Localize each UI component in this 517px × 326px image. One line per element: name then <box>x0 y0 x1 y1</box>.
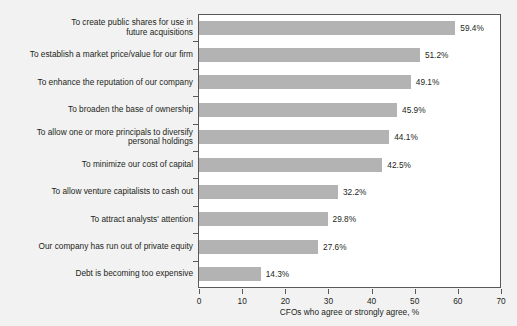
category-label: Debt is becoming too expensive <box>8 269 193 279</box>
y-axis-tick <box>193 206 198 207</box>
bar <box>199 240 318 254</box>
bar-value-label: 32.2% <box>343 187 367 197</box>
category-label: To attract analysts' attention <box>8 215 193 225</box>
bar-value-label: 29.8% <box>333 214 357 224</box>
x-axis-tick-label: 10 <box>238 296 247 306</box>
x-axis-tick <box>372 289 373 294</box>
bar <box>199 185 338 199</box>
y-axis-tick <box>193 233 198 234</box>
category-label: To establish a market price/value for ou… <box>8 50 193 60</box>
bar-row: To broaden the base of ownership45.9% <box>0 96 517 123</box>
bar <box>199 103 397 117</box>
x-axis-tick <box>242 289 243 294</box>
x-axis-tick-label: 20 <box>281 296 290 306</box>
bar-value-label: 44.1% <box>394 132 418 142</box>
bar <box>199 130 389 144</box>
bar <box>199 48 420 62</box>
x-axis-tick <box>458 289 459 294</box>
x-axis-tick-label: 70 <box>496 296 505 306</box>
x-axis-title: CFOs who agree or strongly agree, % <box>198 307 501 317</box>
x-axis-tick-label: 50 <box>410 296 419 306</box>
bar-value-label: 49.1% <box>416 77 440 87</box>
bar-value-label: 59.4% <box>460 23 484 33</box>
bar-row: To establish a market price/value for ou… <box>0 41 517 68</box>
x-axis-tick-label: 0 <box>197 296 202 306</box>
x-axis-tick <box>501 289 502 294</box>
category-label: To allow one or more principals to diver… <box>8 128 193 147</box>
category-label: To allow venture capitalists to cash out <box>8 187 193 197</box>
bar-row: Our company has run out of private equit… <box>0 233 517 260</box>
bar-value-label: 51.2% <box>425 50 449 60</box>
bar-value-label: 27.6% <box>323 242 347 252</box>
bar-row: To attract analysts' attention29.8% <box>0 206 517 233</box>
x-axis-tick-label: 30 <box>324 296 333 306</box>
bar-row: To minimize our cost of capital42.5% <box>0 151 517 178</box>
bar <box>199 21 455 35</box>
bar <box>199 75 411 89</box>
bar-row: To allow one or more principals to diver… <box>0 124 517 151</box>
category-label: To create public shares for use in futur… <box>8 18 193 37</box>
x-axis-tick-label: 60 <box>453 296 462 306</box>
category-label: To minimize our cost of capital <box>8 160 193 170</box>
y-axis-tick <box>193 178 198 179</box>
y-axis-tick <box>193 41 198 42</box>
x-axis-tick <box>199 289 200 294</box>
bar <box>199 267 261 281</box>
bar-value-label: 42.5% <box>387 160 411 170</box>
category-label: To enhance the reputation of our company <box>8 78 193 88</box>
y-axis-tick <box>193 124 198 125</box>
horizontal-bar-chart: To create public shares for use in futur… <box>0 0 517 326</box>
x-axis-tick-label: 40 <box>367 296 376 306</box>
bar-value-label: 14.3% <box>266 269 290 279</box>
category-label: Our company has run out of private equit… <box>8 242 193 252</box>
y-axis-tick <box>193 151 198 152</box>
bar-value-label: 45.9% <box>402 105 426 115</box>
category-label: To broaden the base of ownership <box>8 105 193 115</box>
y-axis-tick <box>193 69 198 70</box>
y-axis-tick <box>193 96 198 97</box>
x-axis-tick <box>415 289 416 294</box>
y-axis-tick <box>193 261 198 262</box>
bar-row: To enhance the reputation of our company… <box>0 69 517 96</box>
x-axis-tick <box>328 289 329 294</box>
bar-row: To create public shares for use in futur… <box>0 14 517 41</box>
bar <box>199 212 328 226</box>
bar <box>199 158 382 172</box>
bar-rows: To create public shares for use in futur… <box>0 14 517 288</box>
x-axis-tick <box>285 289 286 294</box>
bar-row: To allow venture capitalists to cash out… <box>0 178 517 205</box>
bar-row: Debt is becoming too expensive14.3% <box>0 261 517 288</box>
